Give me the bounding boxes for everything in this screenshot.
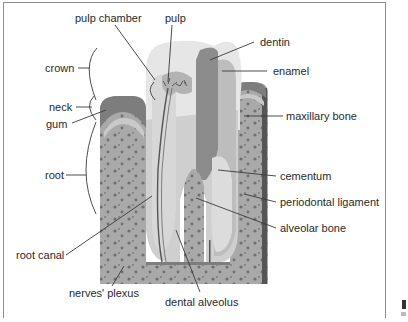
label-root-canal: root canal: [16, 249, 64, 261]
tooth-diagram: pulp chamber pulp dentin enamel crown ne…: [0, 0, 408, 322]
cropped-text-fragment-2: [401, 312, 406, 316]
label-dental-alveolus: dental alveolus: [165, 296, 239, 308]
label-nerves-plexus: nerves' plexus: [69, 287, 139, 299]
label-cementum: cementum: [280, 170, 331, 182]
label-pulp: pulp: [165, 12, 186, 24]
label-maxillary-bone: maxillary bone: [286, 110, 357, 122]
label-periodontal-ligament: periodontal ligament: [280, 196, 379, 208]
label-neck: neck: [49, 101, 73, 113]
label-gum: gum: [46, 118, 67, 130]
tooth: [146, 41, 242, 262]
cropped-text-fragment: [402, 300, 406, 309]
label-pulp-chamber: pulp chamber: [75, 12, 142, 24]
label-root: root: [45, 169, 64, 181]
label-enamel: enamel: [273, 65, 309, 77]
label-dentin: dentin: [260, 36, 290, 48]
label-alveolar-bone: alveolar bone: [280, 222, 346, 234]
label-crown: crown: [45, 62, 74, 74]
